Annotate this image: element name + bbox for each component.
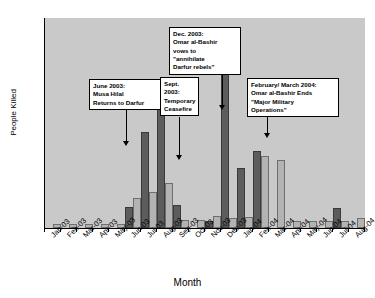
y-axis: 0500100015002000250030003500 [0,0,44,240]
annotation-line: June 2003: [93,82,159,90]
annotation-line: Sept. [164,80,195,88]
annotation-line: "Major Military [251,98,335,106]
annotation-line: "annihilate [173,55,237,63]
annotation-line: vows to [173,47,237,55]
annotation-line: Temporary [164,97,195,105]
x-axis-title: Month [0,277,375,288]
annotation-line: Darfur rebels" [173,63,237,71]
annotation-line: Dec. 2003: [173,30,237,38]
annotation-line: 2003: [164,88,195,96]
annotation-major-military-operations: February/ March 2004:Omar al-Bashir Ends… [247,78,339,117]
annotation-line: Musa Hilal [93,90,159,98]
annotation-ceasefire: Sept.2003:TemporaryCeasefire [160,77,199,116]
annotation-line: Ceasefire [164,105,195,113]
annotation-line: Omar al-Bashir [173,38,237,46]
annotation-musa-hilal: June 2003:Musa HilalReturns to Darfur [89,79,163,110]
y-axis-title: People Killed [9,68,18,158]
annotation-line: Operations" [251,106,335,114]
bar-Feb-04-light [261,156,269,228]
chart-container: 0500100015002000250030003500 People Kill… [0,0,375,298]
annotation-line: February/ March 2004: [251,81,335,89]
annotation-line: Omar al-Bashir Ends [251,89,335,97]
annotation-line: Returns to Darfur [93,99,159,107]
bar-Jul-03-dark [141,132,149,228]
bar-Mar-04-light [277,160,285,228]
annotation-annihilate: Dec. 2003:Omar al-Bashirvows to"annihila… [169,27,241,75]
x-axis-tick [44,228,45,232]
